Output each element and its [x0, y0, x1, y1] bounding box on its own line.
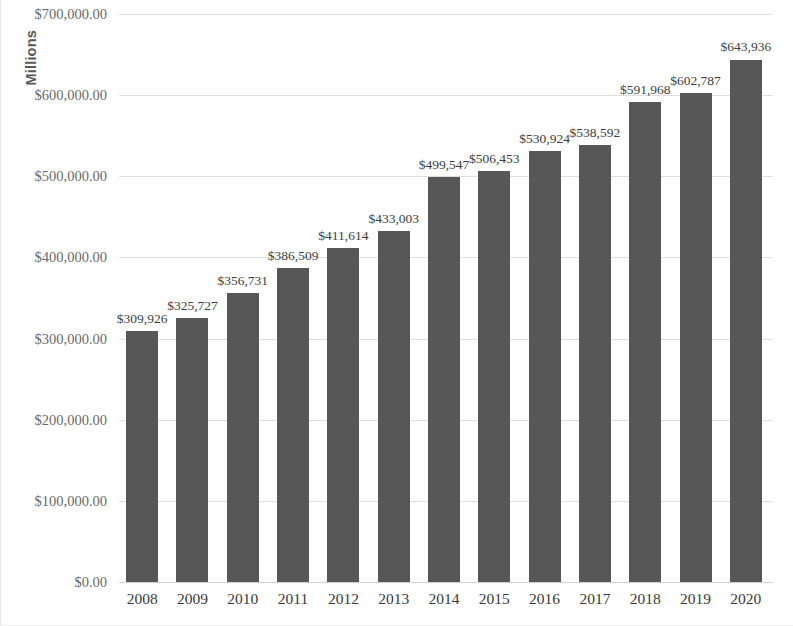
bar[interactable] [176, 318, 208, 582]
y-axis-tick-label: $400,000.00 [35, 249, 108, 266]
bar[interactable] [126, 331, 158, 582]
bar[interactable] [428, 177, 460, 582]
bar-data-label: $530,924 [519, 131, 570, 147]
bar[interactable] [227, 293, 259, 582]
x-axis-tick-label: 2011 [278, 590, 308, 608]
x-axis-tick-label: 2008 [127, 590, 158, 608]
gridline [119, 14, 773, 15]
bar-chart: Millions $700,000.00$600,000.00$500,000.… [0, 0, 793, 626]
x-axis-tick-label: 2017 [579, 590, 610, 608]
x-axis-tick-label: 2013 [378, 590, 409, 608]
x-axis-tick-label: 2015 [479, 590, 510, 608]
gridline [119, 95, 773, 96]
x-axis-tick-label: 2018 [630, 590, 661, 608]
bar-data-label: $386,509 [268, 248, 319, 264]
y-axis-tick-label: $500,000.00 [35, 168, 108, 185]
bar[interactable] [730, 60, 762, 583]
x-axis-tick-labels: 2008200920102011201220132014201520162017… [119, 590, 773, 618]
gridline [119, 582, 773, 583]
bar[interactable] [277, 268, 309, 582]
bar[interactable] [680, 93, 712, 582]
x-axis-tick-label: 2019 [680, 590, 711, 608]
bar-data-label: $433,003 [368, 211, 419, 227]
y-axis-tick-label: $0.00 [74, 574, 107, 591]
bar[interactable] [629, 102, 661, 582]
bar-data-label: $356,731 [217, 273, 268, 289]
bar[interactable] [579, 145, 611, 582]
bar-data-label: $591,968 [620, 82, 671, 98]
bar[interactable] [478, 171, 510, 582]
y-axis-tick-labels: $700,000.00$600,000.00$500,000.00$400,00… [1, 14, 113, 582]
bar-data-label: $506,453 [469, 151, 520, 167]
y-axis-tick-label: $300,000.00 [35, 330, 108, 347]
bar-data-label: $309,926 [117, 311, 168, 327]
x-axis-tick-label: 2009 [177, 590, 208, 608]
bar[interactable] [327, 248, 359, 582]
y-axis-tick-label: $200,000.00 [35, 411, 108, 428]
bar-data-label: $499,547 [419, 157, 470, 173]
x-axis-tick-label: 2010 [227, 590, 258, 608]
bar[interactable] [378, 231, 410, 582]
y-axis-tick-label: $600,000.00 [35, 87, 108, 104]
x-axis-tick-label: 2012 [328, 590, 359, 608]
plot-area: $309,926$325,727$356,731$386,509$411,614… [119, 14, 773, 582]
bar-data-label: $538,592 [570, 125, 621, 141]
bar-data-label: $602,787 [670, 73, 721, 89]
x-axis-tick-label: 2016 [529, 590, 560, 608]
bar[interactable] [529, 151, 561, 582]
x-axis-tick-label: 2020 [730, 590, 761, 608]
bar-data-label: $411,614 [318, 228, 368, 244]
y-axis-tick-label: $100,000.00 [35, 492, 108, 509]
bar-data-label: $325,727 [167, 298, 218, 314]
x-axis-tick-label: 2014 [429, 590, 460, 608]
y-axis-tick-label: $700,000.00 [35, 6, 108, 23]
bar-data-label: $643,936 [721, 39, 772, 55]
